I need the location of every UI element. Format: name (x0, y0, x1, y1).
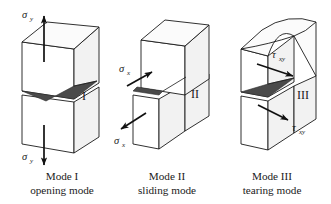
mode2-sigma-x-bottom-label: σ x (114, 135, 126, 149)
captions: Mode I opening mode Mode II sliding mode… (30, 170, 301, 196)
mode1-sigma-y-top-subscript: y (29, 15, 34, 23)
figure-canvas: σ y σ y I (0, 0, 331, 204)
mode1-caption-line1: Mode I (46, 170, 79, 182)
mode1-numeral: I (82, 89, 86, 103)
panel-mode-1: σ y σ y I (22, 9, 99, 165)
mode3-lower-right-edge (294, 76, 316, 133)
mode2-sigma-x-top-subscript: x (126, 69, 131, 77)
mode3-tau-xy-top-subscript: xy (278, 55, 286, 63)
mode1-caption-line2: opening mode (30, 184, 94, 196)
mode1-lower-front-face (22, 95, 74, 153)
mode2-caption-line1: Mode II (149, 170, 186, 182)
mode1-sigma-y-bottom-symbol: σ (22, 151, 28, 162)
mode1-sigma-y-top-label: σ y (22, 9, 34, 23)
mode1-sigma-y-bottom-label: σ y (22, 151, 34, 165)
mode3-lower-side-face (268, 86, 294, 150)
mode2-numeral: II (191, 87, 199, 101)
mode2-sigma-x-bottom-subscript: x (121, 141, 126, 149)
panel-mode-3: τ xy τ xy III (241, 18, 316, 150)
mode3-lower-front-face (241, 96, 268, 150)
mode2-sigma-x-top-symbol: σ (119, 63, 125, 74)
mode3-caption-line2: tearing mode (243, 184, 302, 196)
mode2-caption-line2: sliding mode (138, 184, 196, 196)
mode3-tau-xy-bottom-subscript: xy (298, 128, 306, 136)
mode2-sigma-x-bottom-symbol: σ (114, 135, 120, 146)
mode1-sigma-y-bottom-subscript: y (29, 157, 34, 165)
mode1-sigma-y-top-symbol: σ (22, 9, 28, 20)
mode3-numeral: III (297, 88, 309, 102)
mode2-sigma-x-top-label: σ x (119, 63, 131, 77)
mode2-upper-front-face (141, 40, 185, 95)
fracture-modes-figure: σ y σ y I (0, 0, 331, 204)
panel-mode-2: σ x σ x II (114, 20, 209, 149)
mode3-caption-line1: Mode III (252, 170, 292, 182)
mode2-lower-front-face (133, 95, 159, 149)
